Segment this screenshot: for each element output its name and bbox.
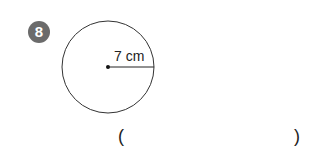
- answer-close-paren: ): [294, 126, 300, 147]
- answer-blank[interactable]: [132, 128, 292, 148]
- radius-label: 7 cm: [114, 48, 144, 64]
- answer-open-paren: (: [118, 126, 124, 147]
